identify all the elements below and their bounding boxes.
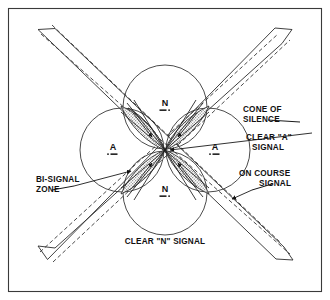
sector-letter-north: N xyxy=(162,98,169,108)
label-clear-a-signal-line1: CLEAR "A" xyxy=(246,133,292,142)
morse-dot-east xyxy=(209,153,211,155)
morse-dash-north xyxy=(160,109,167,111)
sector-letter-south: N xyxy=(162,184,169,194)
morse-dot-west xyxy=(107,153,109,155)
radio-range-figure: N N A A CONE OF SILENCE CLEAR "A" SIGNAL… xyxy=(0,0,330,300)
morse-dash-west xyxy=(111,153,118,155)
label-clear-n-signal: CLEAR "N" SIGNAL xyxy=(125,237,206,246)
label-on-course-signal-line1: ON COURSE xyxy=(239,169,291,178)
label-bi-signal-zone-line2: ZONE xyxy=(36,185,60,194)
label-bi-signal-zone-line1: BI-SIGNAL xyxy=(36,175,80,184)
sector-letter-east: A xyxy=(212,142,219,152)
label-on-course-signal-line2: SIGNAL xyxy=(259,179,291,188)
label-cone-of-silence-line2: SILENCE xyxy=(243,115,280,124)
morse-dot-south xyxy=(168,195,170,197)
morse-dash-south xyxy=(160,195,167,197)
label-cone-of-silence-line1: CONE OF xyxy=(243,105,282,114)
radio-range-diagram: N N A A CONE OF SILENCE CLEAR "A" SIGNAL… xyxy=(0,0,330,300)
morse-dot-north xyxy=(168,109,170,111)
label-clear-a-signal-line2: SIGNAL xyxy=(252,143,284,152)
sector-letter-west: A xyxy=(110,142,117,152)
morse-dash-east xyxy=(213,153,220,155)
